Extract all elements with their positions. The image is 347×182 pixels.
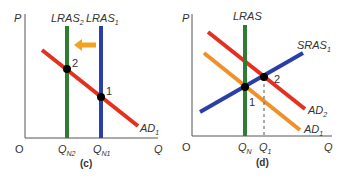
panel-d-origin: O: [182, 141, 191, 153]
panel-c-lras2-label: LRAS2: [51, 12, 84, 26]
panel-d-point-2-label: 2: [274, 73, 280, 85]
panel-c-tick-qn2: QN2: [58, 143, 76, 157]
panel-d-lras-label: LRAS: [233, 10, 262, 22]
panel-d-x-label: Q: [324, 141, 333, 153]
panel-d-ad2-label: AD2: [307, 104, 327, 118]
panel-c-point-2: [63, 65, 71, 73]
panel-c-lras1-label: LRAS1: [86, 12, 119, 26]
panel-c-point-1-label: 1: [106, 85, 112, 97]
panel-c-ad1-label: AD1: [139, 122, 159, 136]
macro-diagrams: P O Q LRAS2 LRAS1 AD1 2 1 QN2: [0, 0, 347, 182]
panel-c: P O Q LRAS2 LRAS1 AD1 2 1 QN2: [14, 12, 163, 169]
panel-d-tick-qn: QN: [238, 141, 253, 155]
panel-d-point-2: [260, 73, 268, 81]
panel-c-y-label: P: [14, 12, 22, 24]
panel-c-ad1-line: [42, 50, 138, 126]
panel-d-point-1: [241, 83, 249, 91]
panel-c-caption: (c): [80, 158, 92, 169]
panel-d-point-1-label: 1: [249, 96, 255, 108]
panel-d: P O Q LRAS SRAS1 AD2 AD1 2 1 QN: [182, 10, 333, 168]
panel-c-origin: O: [15, 143, 24, 155]
panel-d-y-label: P: [182, 12, 190, 24]
panel-d-ad1-label: AD1: [303, 123, 323, 137]
panel-d-caption: (d): [256, 157, 269, 168]
panel-c-point-1: [97, 93, 105, 101]
panel-c-shift-left-arrow-icon: [74, 39, 96, 51]
panel-d-tick-q1: Q1: [259, 141, 272, 155]
panel-c-point-2-label: 2: [72, 57, 78, 69]
panel-c-tick-qn1: QN1: [93, 143, 111, 157]
panel-c-x-label: Q: [154, 143, 163, 155]
panel-d-sras1-label: SRAS1: [297, 39, 331, 53]
